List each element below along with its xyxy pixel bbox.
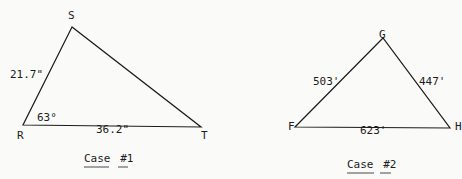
case1-caption: Case #1 bbox=[84, 153, 133, 165]
angle-r-label: 63° bbox=[37, 112, 57, 124]
case1-caption-hash: # bbox=[120, 152, 127, 165]
side-rs-label: 21.7" bbox=[10, 69, 43, 81]
side-fh-label: 623' bbox=[360, 125, 387, 137]
side-rt-label: 36.2" bbox=[96, 124, 129, 136]
vertex-f-label: F bbox=[288, 121, 295, 133]
vertex-g-label: G bbox=[379, 29, 386, 41]
case2-caption-number: 2 bbox=[390, 158, 397, 171]
vertex-h-label: H bbox=[455, 121, 462, 133]
case2-caption-hash: # bbox=[383, 158, 390, 171]
side-fg-label: 503' bbox=[313, 76, 340, 88]
case2-caption: Case #2 bbox=[347, 159, 396, 171]
side-gh-label: 447' bbox=[419, 76, 446, 88]
case1-caption-number: 1 bbox=[127, 152, 134, 165]
vertex-t-label: T bbox=[201, 130, 208, 142]
case2-caption-word: Case bbox=[347, 158, 374, 171]
vertex-s-label: S bbox=[68, 10, 75, 22]
case1-caption-word: Case bbox=[84, 152, 111, 165]
vertex-r-label: R bbox=[17, 130, 24, 142]
diagram-canvas bbox=[0, 0, 462, 179]
